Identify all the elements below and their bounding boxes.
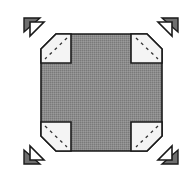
arrow-top-right-icon: [158, 18, 178, 36]
corner-square-top-left: [41, 34, 71, 63]
corner-square-top-right: [131, 34, 162, 63]
arrow-bottom-left-icon: [24, 146, 44, 164]
quilt-block-diagram: [0, 0, 189, 179]
arrow-bottom-right-icon: [158, 146, 178, 164]
diagram-canvas: [0, 0, 189, 179]
corner-square-bottom-right: [131, 122, 162, 151]
corner-square-bottom-left: [41, 122, 71, 151]
arrow-top-left-icon: [24, 18, 44, 36]
